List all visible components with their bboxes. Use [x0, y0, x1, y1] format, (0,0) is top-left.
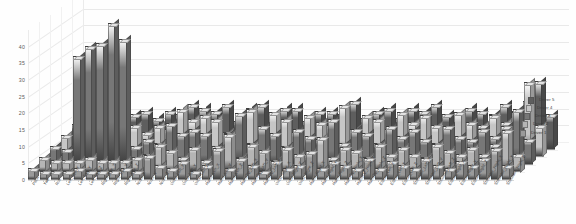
x-axis-tick-mark — [413, 180, 414, 182]
x-axis-tick-label: Roll — [55, 178, 62, 186]
legend-label: Driver 3 — [535, 113, 550, 118]
x-axis-tick-mark — [159, 180, 160, 182]
legend-label: Driver 5 — [539, 97, 554, 102]
x-axis-tick-mark — [471, 180, 472, 182]
x-axis-tick-mark — [309, 180, 310, 182]
x-axis-tick-mark — [124, 180, 125, 182]
legend-swatch — [526, 105, 532, 112]
x-axis-tick-mark — [66, 180, 67, 182]
bar-chart-3d: 0510152025303540 PitchYawRollLeft_Eye_XL… — [0, 0, 576, 224]
x-axis-tick-mark — [367, 180, 368, 182]
x-axis-tick-mark — [355, 180, 356, 182]
x-axis-tick-mark — [483, 180, 484, 182]
legend-label: Driver 1 — [531, 130, 546, 135]
x-axis-tick-mark — [205, 180, 206, 182]
x-axis-tick-mark — [54, 180, 55, 182]
x-axis-tick-label: Nose_Z — [159, 171, 170, 186]
x-axis-tick-mark — [112, 180, 113, 182]
x-axis-tick-mark — [425, 180, 426, 182]
x-axis-tick-mark — [89, 180, 90, 182]
x-axis-tick-mark — [436, 180, 437, 182]
x-axis-tick-mark — [459, 180, 460, 182]
legend-label: Driver 4 — [537, 105, 552, 110]
x-axis-tick-label: Pitch — [32, 176, 40, 186]
x-axis-tick-mark — [31, 180, 32, 182]
x-axis-tick-mark — [147, 180, 148, 182]
legend-swatch — [520, 130, 526, 137]
plot-area: 0510152025303540 PitchYawRollLeft_Eye_XL… — [0, 0, 576, 224]
x-axis-tick-mark — [240, 180, 241, 182]
x-axis-tick-mark — [263, 180, 264, 182]
x-axis-tick-mark — [506, 180, 507, 182]
x-axis-tick-mark — [286, 180, 287, 182]
x-axis-tick-mark — [321, 180, 322, 182]
x-axis-tick-mark — [135, 180, 136, 182]
x-axis-tick-mark — [448, 180, 449, 182]
x-axis-tick-mark — [216, 180, 217, 182]
x-axis-tick-mark — [78, 180, 79, 182]
x-axis-tick-mark — [378, 180, 379, 182]
x-axis-tick-mark — [402, 180, 403, 182]
legend-label: Driver 2 — [533, 121, 548, 126]
x-axis-labels: PitchYawRollLeft_Eye_XLeft_Eye_YLeft_Eye… — [0, 0, 576, 224]
x-axis-tick-mark — [101, 180, 102, 182]
legend-swatch — [528, 97, 534, 104]
x-axis-tick-mark — [182, 180, 183, 182]
legend-swatch — [522, 121, 528, 128]
x-axis-tick-label: Nose_X — [136, 171, 147, 186]
x-axis-tick-label: Yaw — [43, 177, 51, 186]
x-axis-tick-mark — [193, 180, 194, 182]
x-axis-tick-mark — [43, 180, 44, 182]
x-axis-tick-mark — [251, 180, 252, 182]
x-axis-tick-mark — [332, 180, 333, 182]
x-axis-tick-mark — [297, 180, 298, 182]
x-axis-tick-mark — [228, 180, 229, 182]
x-axis-tick-label: Nose_Y — [147, 171, 158, 186]
x-axis-tick-mark — [494, 180, 495, 182]
x-axis-tick-mark — [170, 180, 171, 182]
x-axis-tick-mark — [390, 180, 391, 182]
x-axis-tick-mark — [274, 180, 275, 182]
x-axis-tick-mark — [344, 180, 345, 182]
legend-swatch — [524, 113, 530, 120]
